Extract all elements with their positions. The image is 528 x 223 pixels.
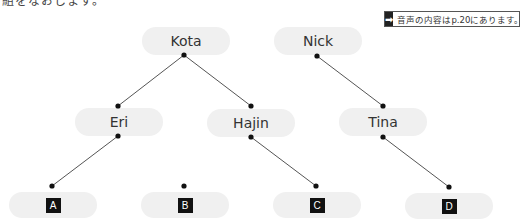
dot-hajin-top — [248, 103, 253, 108]
dot-tina-top — [380, 103, 385, 108]
line-hajin-c — [251, 137, 316, 186]
dot-eri-bottom — [115, 133, 120, 138]
dot-a — [49, 183, 54, 188]
dot-hajin-bottom — [248, 134, 253, 139]
connector-lines — [0, 0, 528, 223]
line-kota-hajin — [184, 55, 251, 106]
line-nick-tina — [317, 56, 383, 106]
dot-nick — [314, 53, 319, 58]
dot-kota — [181, 52, 186, 57]
dot-c — [313, 183, 318, 188]
dot-eri-top — [115, 103, 120, 108]
dot-b — [181, 183, 186, 188]
line-tina-d — [383, 137, 449, 187]
dot-d — [446, 184, 451, 189]
line-kota-eri — [118, 55, 184, 106]
line-eri-a — [52, 136, 118, 186]
dot-tina-bottom — [380, 134, 385, 139]
